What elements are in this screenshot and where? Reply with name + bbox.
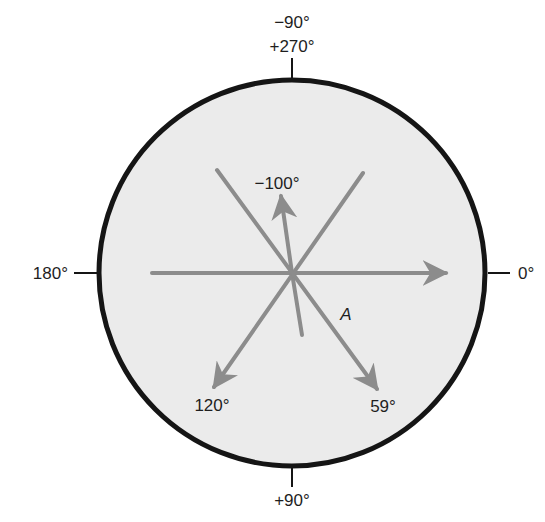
label-top-plus-270: +270°	[269, 37, 314, 56]
direction-diagram: −90° +270° 0° +90° 180° −100° 120° 59° A	[0, 0, 545, 522]
label-top-minus-90: −90°	[274, 13, 310, 32]
label-right-0: 0°	[518, 264, 534, 283]
label-axis-A: A	[339, 305, 351, 324]
label-vector-minus-100: −100°	[254, 174, 299, 193]
label-left-180: 180°	[33, 264, 68, 283]
label-vector-59: 59°	[370, 397, 396, 416]
label-bottom-plus-90: +90°	[274, 491, 310, 510]
label-vector-120: 120°	[194, 396, 229, 415]
